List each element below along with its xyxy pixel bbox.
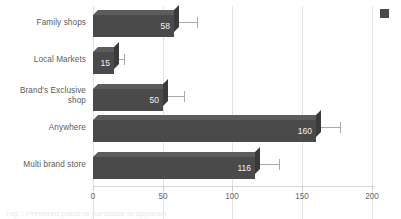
bar: 160	[93, 120, 316, 142]
x-tick-mark	[163, 186, 164, 190]
bar-row: Anywhere 160	[0, 111, 401, 148]
bar-value-label: 116	[237, 157, 251, 179]
bar-value-label: 50	[150, 89, 159, 111]
bar-value-label: 160	[298, 120, 312, 142]
category-label: Family shops	[0, 18, 86, 28]
bar: 50	[93, 89, 163, 111]
error-bar-cap-right	[184, 91, 185, 102]
horizontal-bar-chart: Family shops 58 Local Markets 15 Bra	[0, 0, 401, 219]
error-bar-cap-right	[279, 159, 280, 170]
bar-row: Multi brand store 116	[0, 148, 401, 185]
x-tick-mark	[232, 186, 233, 190]
caption-strip: Fig. : Preferred place of purchase of ap…	[0, 212, 401, 219]
bar-row: Family shops 58	[0, 10, 401, 47]
x-tick-label: 0	[91, 192, 96, 201]
error-bar-cap-right	[340, 122, 341, 133]
error-bar-cap-right	[197, 17, 198, 28]
x-tick-mark	[302, 186, 303, 190]
error-bar-cap-right	[124, 54, 125, 65]
x-tick-mark	[93, 186, 94, 190]
bar: 15	[93, 52, 114, 74]
bar: 58	[93, 15, 174, 37]
x-tick-label: 200	[365, 192, 379, 201]
bar-front-face	[93, 157, 255, 179]
x-tick-mark	[372, 186, 373, 190]
x-tick-label: 100	[225, 192, 239, 201]
bar-row: Local Markets 15	[0, 47, 401, 84]
x-axis-baseline	[93, 186, 375, 187]
category-label: Local Markets	[0, 55, 86, 65]
category-label: Brand's Exclusive shop	[8, 86, 86, 106]
caption-text: Fig. : Preferred place of purchase of ap…	[0, 212, 401, 218]
bar-front-face	[93, 120, 316, 142]
bar-value-label: 58	[161, 15, 170, 37]
category-label: Multi brand store	[0, 160, 86, 170]
x-tick-label: 50	[158, 192, 167, 201]
bar: 116	[93, 157, 255, 179]
category-label: Anywhere	[0, 123, 86, 133]
bar-value-label: 15	[101, 52, 110, 74]
x-tick-label: 150	[295, 192, 309, 201]
